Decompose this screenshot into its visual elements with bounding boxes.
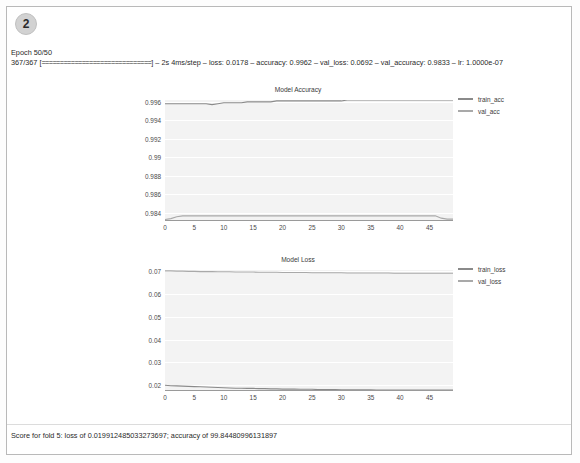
y-tick-label: 0.07: [149, 268, 161, 275]
plot-area: [165, 270, 453, 390]
legend-label: train_acc: [478, 96, 504, 103]
chart-title: Model Loss: [133, 256, 463, 263]
epoch-line: Epoch 50/50: [11, 48, 571, 58]
legend-swatch-icon: [458, 98, 473, 100]
cell-execution-badge: 2: [15, 13, 37, 35]
legend-label: val_loss: [478, 278, 501, 285]
y-tick-label: 0.02: [149, 382, 161, 389]
x-tick-label: 35: [367, 394, 374, 401]
x-tick-label: 45: [426, 224, 433, 231]
series-canvas: [165, 100, 453, 220]
training-log: Epoch 50/50 367/367 [===================…: [11, 48, 571, 68]
chart-title: Model Accuracy: [133, 86, 463, 93]
legend-swatch-icon: [458, 110, 473, 112]
y-tick-label: 0.06: [149, 291, 161, 298]
chart-legend-accuracy: train_accval_acc: [458, 93, 504, 117]
x-tick-label: 10: [220, 224, 227, 231]
x-tick-label: 5: [193, 224, 197, 231]
x-tick-label: 30: [338, 224, 345, 231]
x-axis-line: [165, 220, 453, 221]
chart-legend-loss: train_lossval_loss: [458, 263, 505, 287]
series-line-train_acc: [165, 100, 453, 105]
x-tick-label: 20: [279, 224, 286, 231]
legend-label: val_acc: [478, 108, 500, 115]
legend-item-train_loss: train_loss: [458, 263, 505, 275]
progress-metrics: – 2s 4ms/step – loss: 0.0178 – accuracy:…: [153, 58, 503, 67]
legend-label: train_loss: [478, 266, 505, 273]
series-canvas: [165, 270, 453, 390]
y-tick-label: 0.996: [145, 98, 161, 105]
progress-bar: ==============================: [41, 58, 151, 67]
y-tick-label: 0.04: [149, 336, 161, 343]
plot-area: [165, 100, 453, 220]
series-line-val_acc: [165, 216, 453, 220]
x-axis-line: [165, 390, 453, 391]
x-tick-label: 35: [367, 224, 374, 231]
x-tick-label: 5: [193, 394, 197, 401]
x-tick-label: 0: [163, 224, 167, 231]
y-tick-label: 0.99: [149, 154, 161, 161]
series-line-val_loss: [165, 271, 453, 273]
plot-wrap: 0.020.030.040.050.060.07 051015202530354…: [133, 266, 463, 406]
y-tick-label: 0.988: [145, 172, 161, 179]
x-tick-label: 15: [250, 394, 257, 401]
y-tick-label: 0.986: [145, 191, 161, 198]
chart-model-loss: Model Loss 0.020.030.040.050.060.07 0510…: [133, 256, 463, 406]
legend-item-val_acc: val_acc: [458, 105, 504, 117]
x-tick-label: 40: [397, 224, 404, 231]
x-tick-label: 15: [250, 224, 257, 231]
progress-prefix: 367/367 [: [11, 58, 41, 67]
legend-item-train_acc: train_acc: [458, 93, 504, 105]
y-tick-label: 0.03: [149, 359, 161, 366]
x-tick-label: 25: [308, 394, 315, 401]
x-tick-label: 25: [308, 224, 315, 231]
legend-swatch-icon: [458, 268, 473, 270]
y-tick-label: 0.05: [149, 313, 161, 320]
chart-model-accuracy: Model Accuracy 0.9840.9860.9880.990.9920…: [133, 86, 463, 236]
plot-wrap: 0.9840.9860.9880.990.9920.9940.996 05101…: [133, 96, 463, 236]
x-tick-label: 45: [426, 394, 433, 401]
x-tick-label: 10: [220, 394, 227, 401]
y-tick-label: 0.984: [145, 209, 161, 216]
legend-item-val_loss: val_loss: [458, 275, 505, 287]
x-tick-label: 30: [338, 394, 345, 401]
status-divider: [7, 424, 571, 425]
legend-swatch-icon: [458, 280, 473, 282]
y-tick-label: 0.992: [145, 135, 161, 142]
fold-score-status: Score for fold 5: loss of 0.019912485033…: [11, 431, 277, 440]
x-tick-label: 20: [279, 394, 286, 401]
x-tick-label: 40: [397, 394, 404, 401]
progress-line: 367/367 [==============================]…: [11, 58, 571, 68]
y-tick-label: 0.994: [145, 117, 161, 124]
notebook-output-page: 2 Epoch 50/50 367/367 [=================…: [0, 0, 580, 463]
x-tick-label: 0: [163, 394, 167, 401]
